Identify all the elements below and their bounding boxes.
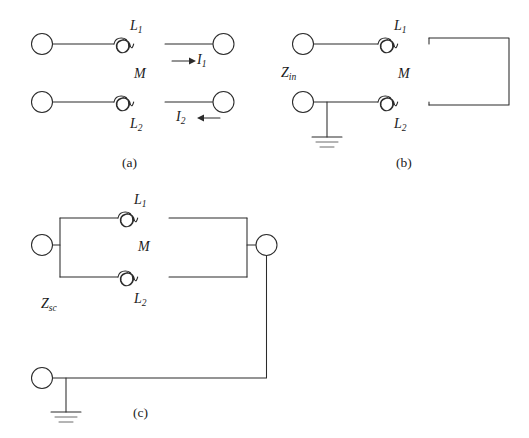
panel-b-terminal-bottom-left[interactable] bbox=[293, 92, 314, 113]
panel-a-label-i1: I1 bbox=[197, 53, 206, 69]
panel-c-circuit bbox=[32, 212, 278, 422]
panel-c-label-l2: L2 bbox=[134, 292, 147, 308]
panel-a-terminal-bottom-left[interactable] bbox=[32, 92, 53, 113]
panel-b-inductor-l2 bbox=[378, 96, 398, 111]
panel-a-label-m: M bbox=[134, 67, 146, 81]
panel-a-inductor-l2 bbox=[114, 96, 134, 111]
panel-a-current-arrow-i2 bbox=[197, 115, 220, 122]
panel-c-label-l1-sub: 1 bbox=[142, 199, 147, 209]
panel-b-terminal-top-left[interactable] bbox=[293, 34, 314, 55]
panel-a-terminal-top-left[interactable] bbox=[32, 34, 53, 55]
panel-a-arrow-i2-head bbox=[197, 115, 204, 122]
panel-a-label-i1-sub: 1 bbox=[202, 59, 207, 69]
panel-c-label-l2-text: L bbox=[134, 291, 142, 306]
panel-c-label-l2-sub: 2 bbox=[142, 298, 147, 308]
panel-b-label-l2: L2 bbox=[394, 117, 407, 133]
panel-a-label-l2-sub: 2 bbox=[138, 123, 143, 133]
panel-b-label-m-text: M bbox=[398, 66, 410, 81]
panel-b-shorting-wire-right bbox=[429, 38, 509, 105]
panel-c-terminal-left-upper[interactable] bbox=[32, 235, 53, 256]
panel-a-label-l1-text: L bbox=[130, 18, 138, 33]
panel-a-label-l1: L1 bbox=[130, 19, 143, 35]
panel-c-caption: (c) bbox=[133, 405, 148, 421]
panel-c-label-zsc-sub: sc bbox=[49, 303, 57, 313]
panel-c-label-l1: L1 bbox=[134, 193, 147, 209]
panel-c-label-l1-text: L bbox=[134, 192, 142, 207]
panel-a-inductor-l1 bbox=[114, 38, 134, 53]
panel-b-label-m: M bbox=[398, 67, 410, 81]
panel-a-label-m-text: M bbox=[134, 66, 146, 81]
panel-b-inductor-l1 bbox=[378, 38, 398, 53]
panel-c-return-wire bbox=[53, 256, 267, 379]
panel-b-label-zin: Zin bbox=[281, 66, 296, 82]
panel-a-label-i2: I2 bbox=[176, 110, 185, 126]
panel-b-ground-symbol bbox=[312, 102, 342, 147]
panel-b-caption: (b) bbox=[396, 155, 412, 171]
panel-a-label-l2-text: L bbox=[130, 116, 138, 131]
figure-root: L1 M L2 I1 I2 (a) L1 M L2 Zin (b) L1 M L… bbox=[0, 0, 529, 438]
panel-a-current-arrow-i1 bbox=[172, 58, 196, 65]
panel-c-label-m: M bbox=[138, 240, 150, 254]
panel-a-caption: (a) bbox=[122, 155, 137, 171]
panel-a-terminal-bottom-right[interactable] bbox=[213, 92, 234, 113]
panel-c-label-zsc: Zsc bbox=[41, 297, 57, 313]
panel-b-label-l1-text: L bbox=[394, 18, 402, 33]
panel-a-label-l1-sub: 1 bbox=[138, 25, 143, 35]
circuit-diagram-canvas bbox=[0, 0, 529, 438]
panel-b-label-l2-text: L bbox=[394, 116, 402, 131]
panel-b-label-l1-sub: 1 bbox=[402, 25, 407, 35]
panel-b-label-l2-sub: 2 bbox=[402, 123, 407, 133]
panel-a-arrow-i1-head bbox=[189, 58, 196, 65]
panel-a-label-i2-sub: 2 bbox=[181, 116, 186, 126]
panel-c-terminal-right-upper[interactable] bbox=[256, 235, 277, 256]
panel-b-label-l1: L1 bbox=[394, 19, 407, 35]
panel-c-ground-symbol bbox=[51, 378, 81, 422]
panel-a-label-l2: L2 bbox=[130, 117, 143, 133]
panel-c-terminal-left-lower[interactable] bbox=[32, 368, 53, 389]
panel-b-label-zin-sub: in bbox=[289, 72, 296, 82]
panel-c-label-zsc-text: Z bbox=[41, 296, 49, 311]
panel-c-label-m-text: M bbox=[138, 239, 150, 254]
panel-a-circuit bbox=[32, 34, 235, 122]
panel-c-inductor-l1 bbox=[118, 212, 138, 227]
panel-c-inductor-l2 bbox=[118, 271, 138, 286]
panel-a-terminal-top-right[interactable] bbox=[213, 34, 234, 55]
panel-b-label-zin-text: Z bbox=[281, 65, 289, 80]
